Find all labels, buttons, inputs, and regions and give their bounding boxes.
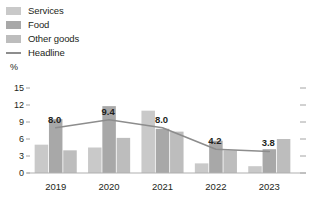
y-axis-tick-label: 6 xyxy=(19,134,24,144)
legend-item-services: Services xyxy=(6,4,79,17)
legend-label-other-goods: Other goods xyxy=(28,34,79,44)
chart-legend: Services Food Other goods Headline xyxy=(6,4,79,60)
legend-label-services: Services xyxy=(28,6,64,16)
chart-bar xyxy=(35,145,49,173)
y-axis-tick-label: 0 xyxy=(19,168,24,178)
chart-bar xyxy=(117,138,130,173)
y-axis-tick-label: 9 xyxy=(19,117,24,127)
chart-canvas: 036912158.09.48.04.23.820192020202120222… xyxy=(0,62,314,211)
legend-item-headline: Headline xyxy=(6,46,79,59)
square-swatch-icon xyxy=(6,35,21,43)
square-swatch-icon xyxy=(6,21,21,29)
data-label: 8.0 xyxy=(155,114,168,125)
chart-bar xyxy=(248,166,262,173)
y-axis-tick-label: 3 xyxy=(19,151,24,161)
chart-figure: Services Food Other goods Headline % 036… xyxy=(0,0,314,211)
plot-area: % 036912158.09.48.04.23.8201920202021202… xyxy=(0,62,314,211)
legend-item-food: Food xyxy=(6,18,79,31)
chart-bar xyxy=(88,148,102,174)
x-axis-tick-label: 2022 xyxy=(205,181,226,192)
chart-bar xyxy=(141,111,155,173)
chart-bar xyxy=(195,163,209,173)
data-label: 8.0 xyxy=(48,114,61,125)
legend-item-other-goods: Other goods xyxy=(6,32,79,45)
chart-bar xyxy=(277,139,291,173)
x-axis-tick-label: 2023 xyxy=(259,181,280,192)
x-axis-tick-label: 2020 xyxy=(99,181,120,192)
line-swatch-icon xyxy=(6,49,21,57)
x-axis-tick-label: 2021 xyxy=(152,181,173,192)
legend-label-food: Food xyxy=(28,20,49,30)
square-swatch-icon xyxy=(6,7,21,15)
legend-label-headline: Headline xyxy=(28,48,65,58)
x-axis-tick-label: 2019 xyxy=(45,181,66,192)
y-axis-tick-label: 12 xyxy=(14,100,24,110)
chart-bar xyxy=(63,150,77,173)
chart-bar xyxy=(156,129,170,173)
data-label: 4.2 xyxy=(208,135,221,146)
data-label: 9.4 xyxy=(101,106,115,117)
data-label: 3.8 xyxy=(262,137,275,148)
chart-bar xyxy=(263,149,277,173)
chart-bar xyxy=(170,132,184,173)
y-axis-tick-label: 15 xyxy=(14,83,24,93)
chart-bar xyxy=(223,150,237,173)
